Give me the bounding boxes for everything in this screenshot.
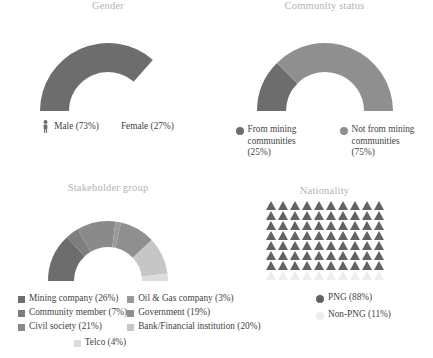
triangle-icon [362, 261, 372, 270]
stakeholder-donut-chart [18, 193, 198, 285]
legend-swatch-icon-telco [74, 340, 81, 347]
legend-item-non-png[interactable]: Non-PNG (11%) [316, 309, 391, 321]
legend-item-not-from-mining[interactable]: Not from mining communities (75%) [340, 124, 418, 159]
legend-item-female[interactable]: Female (27%) [121, 121, 174, 133]
triangle-icon [338, 221, 348, 230]
triangle-icon [314, 231, 324, 240]
triangle-icon [362, 201, 372, 210]
triangle-icon [302, 211, 312, 220]
triangle-icon [314, 211, 324, 220]
triangle-icon [266, 271, 276, 280]
triangle-icon [374, 211, 384, 220]
legend-label-png: PNG (88%) [328, 292, 372, 304]
triangle-icon [362, 211, 372, 220]
page-title-nationality: Nationality [216, 185, 433, 196]
panel-stakeholder-group: Stakeholder group Mining company (26%) C… [0, 182, 216, 358]
triangle-icon [338, 231, 348, 240]
donut-segment [276, 43, 392, 111]
legend-label-not-from-mining: Not from mining communities (75%) [352, 124, 418, 159]
triangle-icon [326, 211, 336, 220]
legend-item-civil-society[interactable]: Civil society (21%) [18, 321, 127, 333]
person-icon [42, 120, 49, 133]
triangle-icon [266, 201, 276, 210]
triangle-icon [290, 231, 300, 240]
triangle-icon [302, 221, 312, 230]
legend-label-female: Female (27%) [121, 121, 174, 133]
triangle-icon [362, 271, 372, 280]
triangle-icon [278, 211, 288, 220]
legend-label-community-member: Community member (7%) [29, 307, 127, 319]
nationality-pictogram-chart [216, 201, 433, 280]
stakeholder-donut-wrap [0, 193, 216, 285]
legend-swatch-icon-oil-gas-company [127, 296, 134, 303]
triangle-icon [326, 241, 336, 250]
triangle-icon [338, 251, 348, 260]
legend-label-male: Male (73%) [54, 121, 99, 133]
triangle-icon [290, 261, 300, 270]
triangle-icon [278, 241, 288, 250]
triangle-icon [362, 221, 372, 230]
triangle-icon [374, 241, 384, 250]
pictogram-row [266, 211, 384, 220]
triangle-icon [326, 271, 336, 280]
triangle-icon [290, 251, 300, 260]
pictogram-row [266, 251, 384, 260]
triangle-icon [338, 271, 348, 280]
panel-gender: Gender Male (73%) Female (27%) [0, 0, 216, 180]
legend-dot-icon-png [316, 295, 324, 303]
legend-item-telco[interactable]: Telco (4%) [74, 337, 126, 349]
triangle-icon [374, 201, 384, 210]
triangle-icon [290, 271, 300, 280]
triangle-icon [290, 201, 300, 210]
legend-dot-icon-not-from-mining [340, 127, 348, 135]
triangle-icon [350, 251, 360, 260]
triangle-icon [326, 261, 336, 270]
triangle-icon [338, 211, 348, 220]
triangle-icon [326, 221, 336, 230]
legend-label-telco: Telco (4%) [85, 337, 126, 349]
legend-item-community-member[interactable]: Community member (7%) [18, 307, 127, 319]
legend-dot-icon-non-png [316, 312, 324, 320]
pictogram-row [266, 261, 384, 270]
legend-dot-icon-from-mining [236, 127, 244, 135]
legend-nationality: PNG (88%) Non-PNG (11%) [216, 292, 433, 320]
triangle-icon [314, 201, 324, 210]
triangle-icon [326, 231, 336, 240]
triangle-icon [362, 231, 372, 240]
legend-item-png[interactable]: PNG (88%) [316, 292, 372, 304]
triangle-icon [278, 251, 288, 260]
pictogram-row [266, 221, 384, 230]
infographic-page: Gender Male (73%) Female (27%) [0, 0, 433, 358]
triangle-icon [266, 221, 276, 230]
pictogram-row [266, 271, 384, 280]
triangle-icon [290, 221, 300, 230]
triangle-icon [278, 201, 288, 210]
legend-item-from-mining[interactable]: From mining communities (25%) [236, 124, 314, 159]
triangle-icon [374, 221, 384, 230]
triangle-icon [362, 241, 372, 250]
pictogram-row [266, 201, 384, 210]
legend-item-mining-company[interactable]: Mining company (26%) [18, 293, 127, 305]
page-title-stakeholder-group: Stakeholder group [0, 182, 216, 193]
legend-label-from-mining: From mining communities (25%) [248, 124, 314, 159]
triangle-icon [350, 241, 360, 250]
triangle-icon [266, 241, 276, 250]
legend-item-male[interactable]: Male (73%) [42, 120, 99, 133]
legend-swatch-icon-mining-company [18, 296, 25, 303]
legend-swatch-icon-community-member [18, 310, 25, 317]
legend-community-status: From mining communities (25%) Not from m… [216, 124, 433, 159]
triangle-icon [290, 241, 300, 250]
pictogram-row [266, 231, 384, 240]
triangle-icon [314, 241, 324, 250]
legend-swatch-icon-bank-financial [127, 324, 134, 331]
triangle-icon [350, 201, 360, 210]
legend-gender: Male (73%) Female (27%) [0, 120, 216, 133]
triangle-icon [278, 261, 288, 270]
legend-column-left: Mining company (26%) Community member (7… [18, 293, 127, 335]
legend-stakeholder-group: Mining company (26%) Community member (7… [0, 293, 216, 351]
triangle-icon [350, 231, 360, 240]
triangle-icon [338, 201, 348, 210]
triangle-icon [290, 211, 300, 220]
community-donut-wrap [216, 11, 433, 116]
triangle-icon [338, 241, 348, 250]
